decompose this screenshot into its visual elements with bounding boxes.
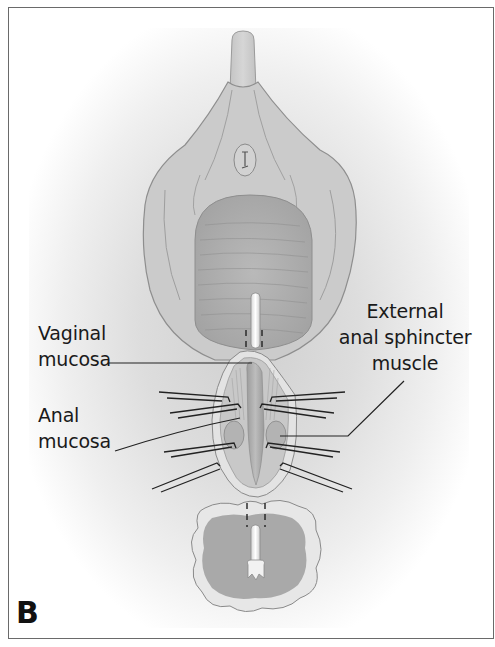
label-line: Anal <box>38 402 111 428</box>
label-vaginal-mucosa: Vaginal mucosa <box>38 320 111 372</box>
urethra-shape <box>234 144 256 176</box>
perineal-repair-site <box>212 351 297 497</box>
label-anal-mucosa: Anal mucosa <box>38 402 111 454</box>
label-external-anal-sphincter: External anal sphincter muscle <box>330 298 480 376</box>
label-line: mucosa <box>38 428 111 454</box>
label-line: External <box>330 298 480 324</box>
label-line: anal sphincter <box>330 324 480 350</box>
panel-letter: B <box>16 595 39 630</box>
label-line: muscle <box>330 350 480 376</box>
label-line: mucosa <box>38 346 111 372</box>
label-line: Vaginal <box>38 320 111 346</box>
rod-upper <box>251 293 260 348</box>
